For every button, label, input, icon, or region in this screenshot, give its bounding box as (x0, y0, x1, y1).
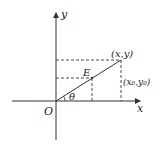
y-axis-label: y (60, 8, 68, 21)
x-axis-label: x (137, 102, 144, 115)
angle-arc (64, 96, 65, 101)
origin-label: O (44, 105, 53, 118)
point-e-dot (91, 77, 93, 79)
coordinate-diagram: y x O (x,y) E (x₀,y₀) θ (0, 0, 161, 146)
angle-theta-label: θ (69, 91, 75, 102)
point-inner-coords-label: (x₀,y₀) (123, 77, 151, 87)
point-outer-label: (x,y) (111, 48, 133, 59)
point-e-label: E (82, 67, 91, 78)
